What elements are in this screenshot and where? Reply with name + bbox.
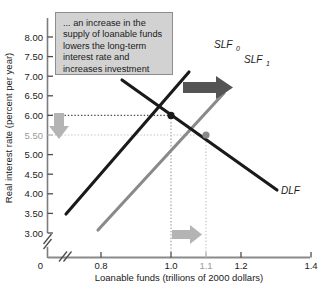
- x-tick-label: 1.1: [199, 260, 212, 271]
- x-axis-title: Loanable funds (trillions of 2000 dollar…: [95, 272, 263, 283]
- y-tick-label: 5.00: [25, 149, 44, 160]
- rightward-funds-arrow: [172, 225, 202, 244]
- callout-text: ... an increase in the supply of loanabl…: [56, 13, 172, 80]
- y-tick-group-1: 7.50: [25, 51, 54, 62]
- y-tick-group-6: 5.00: [25, 149, 54, 160]
- curve-dlf: [122, 80, 277, 190]
- curve-label-slf0-sub: 0: [236, 45, 240, 52]
- y-tick-label: 4.50: [25, 169, 44, 180]
- rightward-shift-arrow: [183, 76, 233, 99]
- y-tick-label: 4.00: [25, 188, 44, 199]
- x-tick-label: 1.2: [234, 260, 247, 271]
- callout-box: ... an increase in the supply of loanabl…: [55, 12, 173, 75]
- x-tick-group-4: 1.4: [304, 252, 317, 271]
- y-tick-label: 5.50: [25, 130, 44, 141]
- origin-label: 0: [38, 260, 43, 271]
- curve-label-slf1-sub: 1: [266, 60, 270, 67]
- y-tick-label: 3.00: [25, 228, 44, 239]
- y-tick-label: 6.00: [25, 110, 44, 121]
- new-equilibrium-point: [202, 131, 209, 138]
- x-tick-label: 0.8: [94, 260, 107, 271]
- y-tick-label: 7.50: [25, 51, 44, 62]
- y-tick-label: 3.50: [25, 208, 44, 219]
- curve-label-slf1-text: SLF: [244, 54, 263, 65]
- y-tick-label: 8.00: [25, 32, 44, 43]
- loanable-funds-chart: 8.00 7.50 7.00 6.50 6.00 5.50: [0, 0, 319, 286]
- y-tick-group-3: 6.50: [25, 90, 54, 101]
- y-tick-label: 6.50: [25, 90, 44, 101]
- y-tick-group-9: 3.50: [25, 208, 54, 219]
- x-tick-label: 1.4: [304, 260, 317, 271]
- x-tick-label: 1.0: [164, 260, 177, 271]
- curve-label-slf0-text: SLF: [214, 39, 233, 50]
- x-tick-group-3: 1.2: [234, 252, 247, 271]
- initial-equilibrium-point: [167, 112, 174, 119]
- y-tick-group-2: 7.00: [25, 71, 54, 82]
- y-tick-group-7: 4.50: [25, 169, 54, 180]
- y-tick-group-0: 8.00: [25, 32, 54, 43]
- curve-slf1: [98, 93, 224, 230]
- curve-label-slf0: SLF 0: [214, 39, 240, 52]
- y-tick-group-8: 4.00: [25, 188, 54, 199]
- y-axis-title: Real interest rate (percent per year): [3, 53, 14, 203]
- curve-label-slf1: SLF 1: [244, 54, 270, 67]
- curve-label-dlf: DLF: [281, 185, 301, 196]
- y-tick-label: 7.00: [25, 71, 44, 82]
- x-tick-group-0: 0.8: [94, 252, 107, 271]
